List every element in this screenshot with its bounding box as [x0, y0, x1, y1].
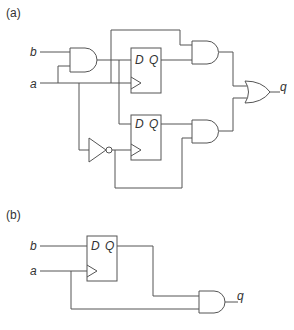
panel-a-label: (a) [6, 6, 21, 20]
panel-b: (b) b a D Q q [6, 208, 244, 313]
panel-b-label: (b) [6, 208, 21, 222]
input-a-label: a [30, 77, 37, 91]
wire-q-to-and [117, 246, 199, 296]
and-gate [199, 291, 225, 313]
wire-and-to-d2 [119, 60, 131, 124]
wire-a-to-and [58, 66, 70, 83]
ff1-d-label: D [135, 53, 144, 67]
ff-d-label: D [91, 239, 100, 253]
wire-and1-to-or [219, 52, 248, 86]
wire-and2-to-or [219, 98, 248, 131]
panel-a: (a) b a D Q D Q [6, 6, 287, 188]
output-q-label: q [280, 80, 287, 94]
ff2-d-label: D [135, 117, 144, 131]
and-gate-2 [192, 120, 219, 143]
inverter-gate [89, 138, 106, 162]
ff2-q-label: Q [149, 117, 158, 131]
input-b-label: b [30, 45, 37, 59]
and-gate-1 [192, 41, 219, 64]
input-b-label: b [30, 239, 37, 253]
input-a-label: a [30, 264, 37, 278]
or-gate [245, 81, 270, 103]
wire-a-to-inverter [79, 83, 89, 150]
circuit-diagram: (a) b a D Q D Q [0, 0, 294, 330]
ff-q-label: Q [105, 239, 114, 253]
and-gate-input [70, 48, 97, 72]
output-q-label: q [237, 289, 244, 303]
inverter-bubble [106, 147, 112, 153]
ff1-q-label: Q [149, 53, 158, 67]
